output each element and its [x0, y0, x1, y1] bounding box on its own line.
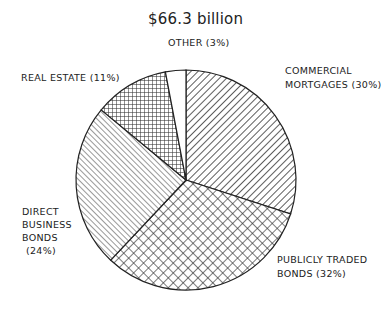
label-line: MORTGAGES (30%) [285, 78, 382, 92]
label-line: (24%) [22, 244, 72, 257]
label-publicly-traded-bonds: PUBLICLY TRADED BONDS (32%) [277, 253, 367, 281]
label-other: OTHER (3%) [168, 36, 230, 50]
label-line: BONDS (32%) [277, 267, 367, 281]
label-line: REAL ESTATE (11%) [21, 71, 120, 85]
label-real-estate: REAL ESTATE (11%) [21, 71, 120, 85]
label-direct-business-bonds: DIRECT BUSINESS BONDS (24%) [22, 205, 72, 257]
label-commercial-mortgages: COMMERCIAL MORTGAGES (30%) [285, 64, 382, 92]
label-line: OTHER (3%) [168, 36, 230, 50]
label-line: BONDS [22, 231, 72, 244]
label-line: DIRECT [22, 205, 72, 218]
label-line: COMMERCIAL [285, 64, 382, 78]
label-line: BUSINESS [22, 218, 72, 231]
label-line: PUBLICLY TRADED [277, 253, 367, 267]
